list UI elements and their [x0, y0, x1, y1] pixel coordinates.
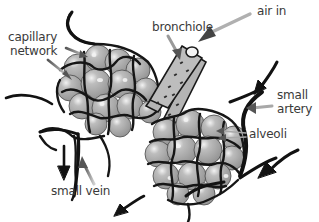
bottom-flow-arrow — [114, 196, 144, 216]
label-bronchiole: bronchiole — [152, 21, 213, 34]
label-capillary-network-line2: network — [10, 45, 57, 58]
label-small-artery-line1: small — [277, 89, 308, 102]
upper-alveolar-cluster — [40, 14, 161, 200]
label-small-vein: small vein — [51, 185, 110, 198]
left-vein-flow-arrow — [58, 146, 70, 180]
label-alveoli: alveoli — [249, 128, 287, 141]
label-air-in: air in — [257, 5, 286, 18]
artery-flow-arrow — [254, 62, 277, 94]
lower-alveolar-cluster — [145, 109, 246, 222]
alveoli-diagram: capillary network bronchiole air in smal… — [0, 0, 319, 222]
label-small-artery-line2: artery — [277, 103, 312, 116]
vein-pointer-arrow — [78, 156, 94, 184]
label-capillary-network-line1: capillary — [8, 31, 57, 44]
